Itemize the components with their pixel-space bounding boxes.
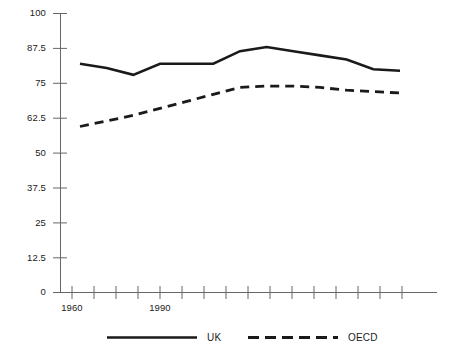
y-tick-label-37-5: 37.5	[4, 182, 46, 193]
line-chart: 100 87.5 75 62.5 50 37.5 25 12.5 0 1960 …	[0, 0, 452, 356]
y-tick-label-62-5: 62.5	[4, 112, 46, 123]
y-tick-label-50: 50	[4, 147, 46, 158]
legend-label-uk: UK	[207, 332, 221, 343]
y-tick-label-0: 0	[4, 286, 46, 297]
x-tick-label-1990: 1990	[135, 302, 185, 313]
series-line-oecd	[80, 86, 400, 126]
legend-label-oecd: OECD	[348, 332, 378, 343]
series-line-uk	[80, 47, 400, 75]
y-tick-label-25: 25	[4, 217, 46, 228]
y-tick-label-75: 75	[4, 77, 46, 88]
x-tick-label-1960: 1960	[47, 302, 97, 313]
y-tick-label-87-5: 87.5	[4, 42, 46, 53]
y-tick-label-100: 100	[4, 7, 46, 18]
y-tick-label-12-5: 12.5	[4, 252, 46, 263]
